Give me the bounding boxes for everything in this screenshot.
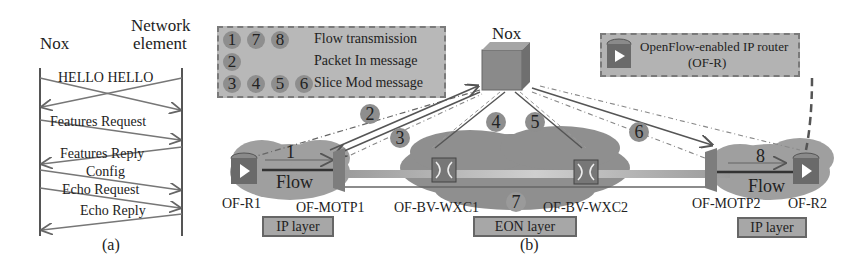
of-bv-wxc1-label: OF-BV-WXC1	[394, 200, 479, 216]
step-5-badge: 5	[525, 112, 545, 132]
of-r2-label: OF-R2	[788, 196, 827, 212]
legend-badge-1: 1	[223, 31, 241, 49]
step-6-badge: 6	[629, 122, 649, 142]
legend-label-slice-mod: Slice Mod message	[314, 75, 423, 91]
legend-badge-2: 2	[223, 53, 241, 71]
legend-row-flow-transmission: 1 7 8	[223, 30, 295, 50]
eon-layer-tag: EON layer	[473, 216, 577, 237]
of-r1-label: OF-R1	[222, 196, 261, 212]
of-r1-router-icon	[231, 153, 257, 184]
of-bv-wxc2-label: OF-BV-WXC2	[543, 200, 628, 216]
right-flow-label: Flow	[748, 176, 785, 197]
legend-badge-6: 6	[295, 75, 313, 93]
of-motp2-device	[705, 148, 717, 192]
legend-row-packet-in: 2	[223, 52, 247, 72]
legend-label-packet-in: Packet In message	[314, 53, 417, 69]
left-ip-layer-tag: IP layer	[262, 216, 334, 237]
legend-badge-4: 4	[247, 75, 265, 93]
left-flow-label: Flow	[276, 172, 313, 193]
legend-badge-8: 8	[271, 31, 289, 49]
of-r2-router-icon	[793, 153, 819, 184]
step-4-badge: 4	[486, 112, 506, 132]
caption-b: (b)	[520, 236, 539, 254]
of-motp2-label: OF-MOTP2	[692, 196, 760, 212]
legend-row-slice-mod: 3 4 5 6	[223, 74, 319, 94]
of-motp1-label: OF-MOTP1	[296, 200, 364, 216]
of-motp1-device	[333, 148, 345, 192]
of-bv-wxc2-icon	[574, 160, 598, 184]
legend-badge-5: 5	[271, 75, 289, 93]
step-1-label: 1	[286, 142, 295, 163]
right-ip-layer-tag: IP layer	[737, 217, 807, 238]
of-bv-wxc1-icon	[432, 158, 456, 182]
router-legend-line1: OpenFlow-enabled IP router	[640, 39, 788, 55]
step-7-badge: 7	[506, 192, 526, 212]
nox-server-icon	[482, 42, 530, 90]
router-legend-icon	[606, 37, 636, 73]
router-legend-line2: (OF-R)	[688, 55, 726, 71]
message-type-legend: 1 7 8 Flow transmission 2 Packet In mess…	[217, 26, 446, 98]
router-legend-box: OpenFlow-enabled IP router (OF-R)	[600, 33, 800, 77]
legend-badge-3: 3	[223, 75, 241, 93]
step-3-badge: 3	[390, 128, 410, 148]
legend-label-flow-transmission: Flow transmission	[314, 31, 417, 47]
legend-badge-7: 7	[247, 31, 265, 49]
step-8-label: 8	[756, 146, 765, 167]
step-2-badge: 2	[360, 104, 380, 124]
nox-controller-label: Nox	[492, 24, 521, 44]
